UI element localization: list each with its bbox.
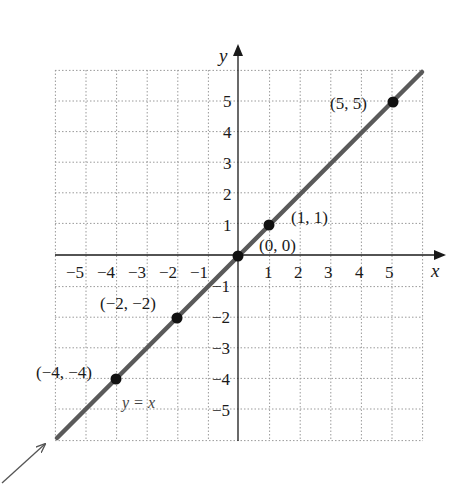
svg-text:−1: −1 [190,263,208,282]
svg-text:3: 3 [223,154,232,173]
svg-text:−5: −5 [212,401,230,420]
label-5-5: (5, 5) [330,94,367,113]
y-tick-labels: 5 4 3 2 1 −1 −2 −3 −4 −5 [212,92,232,420]
label-neg4-neg4: (−4, −4) [36,363,92,382]
svg-text:1: 1 [264,263,273,282]
x-axis-label: x [430,260,440,281]
point-neg2-neg2 [172,313,183,324]
label-1-1: (1, 1) [291,208,328,227]
svg-text:3: 3 [324,263,333,282]
label-neg2-neg2: (−2, −2) [100,294,156,313]
svg-text:−2: −2 [159,263,177,282]
svg-text:4: 4 [223,123,232,142]
point-5-5 [388,97,399,108]
svg-text:5: 5 [385,263,394,282]
svg-text:2: 2 [294,263,303,282]
graph-canvas: x y −5 −4 −3 −2 −1 1 2 3 4 5 5 4 3 2 1 −… [0,0,469,489]
point-neg4-neg4 [111,374,122,385]
point-1-1 [264,220,275,231]
label-0-0: (0, 0) [259,236,296,255]
y-axis-label: y [217,45,228,66]
svg-text:−4: −4 [97,263,116,282]
svg-text:1: 1 [223,216,232,235]
svg-text:−5: −5 [66,263,84,282]
svg-text:−2: −2 [212,308,230,327]
svg-text:−4: −4 [212,370,231,389]
svg-text:−3: −3 [212,339,230,358]
svg-text:4: 4 [355,263,364,282]
equation-label: y = x [120,394,155,412]
pointer-arrow-icon [2,444,45,483]
svg-text:2: 2 [223,185,232,204]
svg-text:−3: −3 [128,263,146,282]
point-0-0 [233,251,244,262]
svg-text:5: 5 [223,92,232,111]
